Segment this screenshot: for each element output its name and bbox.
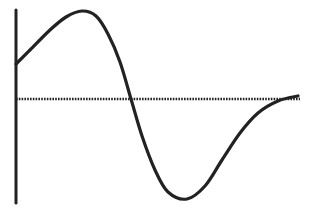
line-chart bbox=[0, 0, 309, 211]
data-curve bbox=[16, 11, 298, 199]
